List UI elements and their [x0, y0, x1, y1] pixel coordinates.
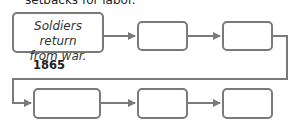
flowchart-box-3[interactable]	[222, 21, 273, 51]
flowchart-box-2[interactable]	[137, 21, 188, 51]
flowchart-box-6[interactable]	[222, 88, 273, 119]
year-label: 1865	[33, 58, 65, 72]
flowchart-box-4[interactable]	[33, 88, 101, 119]
flowchart-box-1: Soldiers return from war.	[12, 12, 104, 53]
box-1-line-1: Soldiers return	[14, 19, 102, 49]
flowchart-box-5[interactable]	[137, 88, 188, 119]
